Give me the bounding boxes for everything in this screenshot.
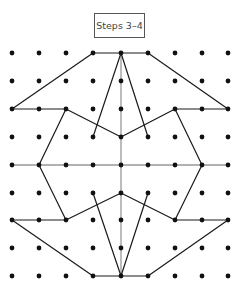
grid-dot <box>10 246 15 251</box>
segment-line <box>148 53 228 109</box>
grid-dot <box>146 274 151 279</box>
segment-line <box>121 53 148 137</box>
grid-dot <box>64 274 69 279</box>
grid-dot <box>173 163 178 168</box>
grid-dot <box>146 135 151 140</box>
grid-dot <box>119 51 124 56</box>
grid-dot <box>173 218 178 223</box>
grid-dot <box>200 79 205 84</box>
grid-dot <box>226 51 231 56</box>
grid-dot <box>10 79 15 84</box>
grid-dot <box>64 51 69 56</box>
segment-line <box>121 193 175 220</box>
grid-dot <box>173 51 178 56</box>
grid-dot <box>91 51 96 56</box>
segment-line <box>66 109 121 137</box>
grid-dot <box>200 51 205 56</box>
grid-dot <box>200 274 205 279</box>
grid-dot <box>200 246 205 251</box>
grid-dot <box>173 191 178 196</box>
grid-dot <box>10 51 15 56</box>
grid-dot <box>10 107 15 112</box>
grid-dot <box>226 135 231 140</box>
segment-line <box>148 220 228 276</box>
grid-dot <box>146 107 151 112</box>
grid-dot <box>10 274 15 279</box>
grid-dot <box>146 51 151 56</box>
grid-dot <box>37 107 42 112</box>
grid-dot <box>173 135 178 140</box>
grid-dot <box>37 163 42 168</box>
grid-dot <box>119 191 124 196</box>
grid-dot <box>119 107 124 112</box>
grid-dot <box>37 246 42 251</box>
grid-dot <box>226 218 231 223</box>
dot-grid-diagram <box>0 0 244 293</box>
grid-dot <box>119 218 124 223</box>
grid-dot <box>37 79 42 84</box>
grid-dot <box>200 135 205 140</box>
grid-dot <box>119 79 124 84</box>
segment-line <box>93 193 121 276</box>
segment-line <box>39 109 66 165</box>
grid-dot <box>146 163 151 168</box>
grid-dot <box>173 79 178 84</box>
segment-line <box>175 165 202 220</box>
grid-dot <box>91 274 96 279</box>
grid-dot <box>64 79 69 84</box>
grid-dot <box>10 163 15 168</box>
segment-line <box>12 53 93 109</box>
grid-dot <box>37 274 42 279</box>
grid-dot <box>91 246 96 251</box>
grid-dot <box>64 107 69 112</box>
grid-dot <box>200 191 205 196</box>
grid-dot <box>226 163 231 168</box>
grid-dot <box>200 107 205 112</box>
grid-dot <box>173 246 178 251</box>
grid-dot <box>119 246 124 251</box>
segment-line <box>66 193 121 220</box>
grid-dot <box>64 246 69 251</box>
grid-dot <box>119 135 124 140</box>
grid-dot <box>146 79 151 84</box>
grid-dot <box>146 218 151 223</box>
grid-dot <box>37 191 42 196</box>
grid-dot <box>64 135 69 140</box>
grid-dot <box>64 191 69 196</box>
grid-dot <box>173 107 178 112</box>
grid-dot <box>91 218 96 223</box>
grid-dot <box>37 218 42 223</box>
grid-dot <box>37 51 42 56</box>
grid-dot <box>91 163 96 168</box>
grid-dot <box>173 274 178 279</box>
grid-dot <box>200 163 205 168</box>
grid-dot <box>200 218 205 223</box>
grid-dot <box>10 135 15 140</box>
segment-line <box>175 109 202 165</box>
segment-line <box>121 109 175 137</box>
grid-dot <box>146 246 151 251</box>
grid-dot <box>226 246 231 251</box>
grid-dot <box>91 135 96 140</box>
grid-dot <box>226 107 231 112</box>
segment-line <box>121 193 148 276</box>
grid-dot <box>226 191 231 196</box>
grid-dot <box>91 107 96 112</box>
grid-dot <box>119 163 124 168</box>
grid-dot <box>10 218 15 223</box>
grid-dot <box>10 191 15 196</box>
segment-line <box>12 220 93 276</box>
grid-dot <box>91 79 96 84</box>
segment-line <box>39 165 66 220</box>
grid-dot <box>119 274 124 279</box>
grid-dot <box>226 274 231 279</box>
grid-dot <box>226 79 231 84</box>
grid-dot <box>91 191 96 196</box>
grid-dot <box>146 191 151 196</box>
grid-dot <box>64 163 69 168</box>
grid-dot <box>37 135 42 140</box>
grid-dot <box>64 218 69 223</box>
